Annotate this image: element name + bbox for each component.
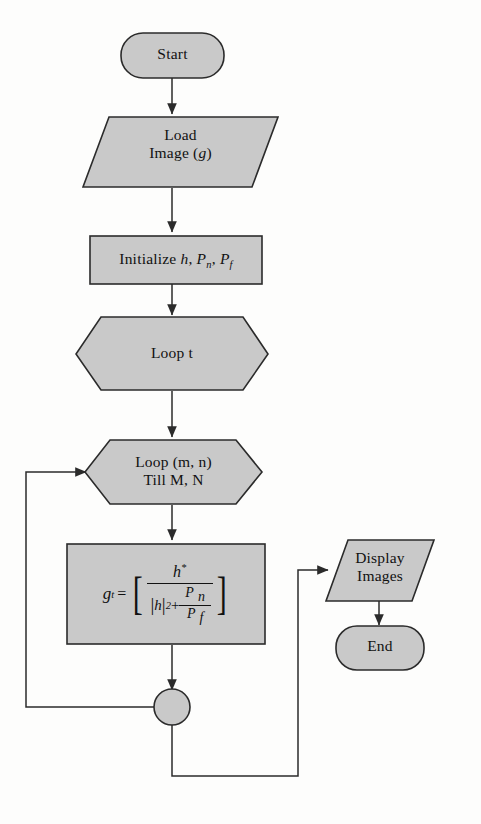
node-formula-expression: gt = [ h* |h|2+ Pn Pf ] <box>67 544 265 644</box>
formula-lhs-var: g <box>103 584 112 604</box>
formula-inner-numerator: Pn <box>181 585 209 605</box>
node-initialize-shape[interactable] <box>90 236 262 284</box>
formula-inner-num-var: P <box>183 585 196 600</box>
formula-inner-denominator: Pf <box>183 606 207 626</box>
formula-lhs-sup: t <box>111 589 114 600</box>
formula-numerator-var: h <box>173 564 181 581</box>
formula-equals: = <box>117 585 126 603</box>
formula-numerator: h* <box>168 562 191 582</box>
node-junction-circle[interactable] <box>154 689 190 725</box>
formula-abs-var: h <box>154 597 162 614</box>
formula-inner-den-sub: f <box>197 610 205 625</box>
formula-inner-den-var: P <box>185 606 198 621</box>
formula-bracket-close: ] <box>217 576 227 613</box>
node-display-images-shape[interactable] <box>326 540 434 601</box>
node-loop-t-shape[interactable] <box>76 317 268 390</box>
flowchart-svg <box>0 0 481 824</box>
formula-plus: + <box>171 597 179 614</box>
formula-inner-fraction: Pn Pf <box>181 585 209 626</box>
flowchart-canvas: Start Load Image (g) Initialize h, Pn, P… <box>0 0 481 824</box>
node-load-image-shape[interactable] <box>83 117 278 187</box>
node-loop-mn-shape[interactable] <box>85 440 262 504</box>
formula-main-fraction: h* |h|2+ Pn Pf <box>147 562 213 625</box>
formula-inner-num-sub: n <box>196 589 207 604</box>
formula-denominator: |h|2+ Pn Pf <box>147 584 213 626</box>
formula-bracket-open: [ <box>133 576 143 613</box>
formula-numerator-star: * <box>181 562 186 573</box>
node-end-shape[interactable] <box>336 626 424 670</box>
node-start-shape[interactable] <box>121 33 224 78</box>
